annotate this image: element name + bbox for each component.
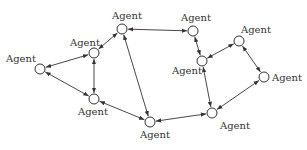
agent-node-a8 [234, 36, 244, 46]
agent-node-a2 [89, 48, 99, 58]
agent-label-a10: Agent [219, 120, 250, 131]
agent-label-a5: Agent [139, 129, 170, 140]
edge-a2-a3 [99, 33, 118, 49]
edge-a7-a8 [207, 44, 233, 58]
agent-node-a10 [207, 108, 217, 118]
edge-a1-a2 [46, 55, 88, 68]
edge-a3-a5 [124, 35, 149, 117]
agent-label-a3: Agent [111, 10, 142, 21]
agent-node-a6 [188, 26, 198, 36]
agent-label-a4: Agent [77, 106, 108, 117]
edge-a9-a10 [217, 80, 259, 109]
agent-node-a1 [35, 64, 45, 74]
agent-node-a9 [259, 72, 269, 82]
agent-label-a1: Agent [5, 53, 36, 64]
agent-label-a8: Agent [240, 24, 271, 35]
edge-a1-a4 [45, 72, 89, 96]
edge-a7-a10 [203, 67, 211, 107]
edge-a5-a10 [156, 114, 206, 121]
agent-label-a2: Agent [69, 37, 100, 48]
edge-a8-a9 [242, 46, 260, 72]
agent-node-a5 [145, 117, 155, 127]
network-graph: AgentAgentAgentAgentAgentAgentAgentAgent… [0, 0, 307, 150]
agent-label-a9: Agent [271, 72, 302, 83]
agent-label-a7: Agent [171, 65, 202, 76]
agent-network-diagram: AgentAgentAgentAgentAgentAgentAgentAgent… [0, 0, 307, 150]
edge-a3-a6 [128, 29, 187, 31]
agent-node-a4 [89, 94, 99, 104]
edge-a6-a7 [195, 37, 201, 56]
agent-label-a6: Agent [180, 12, 211, 23]
agent-node-a3 [117, 24, 127, 34]
